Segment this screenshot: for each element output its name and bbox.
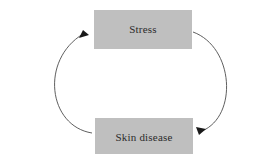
edge-stress-to-skin-disease bbox=[193, 32, 227, 131]
node-stress: Stress bbox=[94, 10, 192, 49]
node-skin-disease-label: Skin disease bbox=[115, 131, 172, 144]
cycle-diagram: Stress Skin disease bbox=[0, 0, 262, 154]
arrowhead-to-skin-disease-icon bbox=[196, 127, 206, 135]
edge-skin-disease-to-stress bbox=[55, 34, 92, 133]
node-skin-disease: Skin disease bbox=[95, 118, 193, 154]
node-stress-label: Stress bbox=[129, 23, 156, 36]
arrowhead-to-stress-icon bbox=[79, 30, 89, 38]
